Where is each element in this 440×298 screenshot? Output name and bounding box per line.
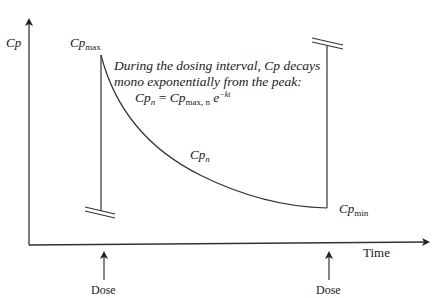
cp-n-label: Cpn: [190, 147, 210, 164]
decay-annotation: During the dosing interval, Cp decays mo…: [113, 58, 320, 107]
cp-max-sub: max: [85, 42, 101, 52]
eq-rhs-sub: max, n: [185, 97, 210, 107]
cp-max-base: Cp: [70, 35, 86, 50]
eq-exp-base: e: [210, 90, 219, 105]
eq-lhs-base: Cp: [135, 90, 151, 105]
pk-dosing-interval-diagram: Cp Time Cpmax Cpmin Cpn During the dosin…: [0, 0, 440, 298]
axis-break-mark-icon: [312, 38, 343, 45]
annotation-line-1: During the dosing interval, Cp decays: [113, 58, 320, 73]
y-axis: Cp: [6, 20, 29, 245]
eq-exp-sup: −kt: [219, 90, 231, 99]
eq-rhs-base: Cp: [170, 90, 186, 105]
eq-equals: =: [155, 90, 169, 105]
cp-min-base: Cp: [339, 201, 355, 216]
annotation-line-2: mono exponentially from the peak:: [114, 74, 302, 89]
axis-break-mark-icon: [85, 211, 115, 218]
dose-label-2: Dose: [316, 283, 341, 297]
cp-max-label: Cpmax: [70, 35, 101, 52]
y-axis-label: Cp: [6, 35, 22, 50]
dose-marker-1: Dose: [91, 253, 116, 297]
cp-n-sub: n: [205, 154, 210, 164]
dose-label-1: Dose: [91, 283, 116, 297]
cp-min-label: Cpmin: [339, 201, 369, 218]
axis-break-mark-icon: [85, 207, 115, 214]
first-dose-peak-line: [85, 55, 115, 218]
cp-n-base: Cp: [190, 147, 206, 162]
x-axis-label: Time: [363, 245, 390, 260]
dose-marker-2: Dose: [316, 253, 341, 297]
x-axis: Time: [29, 242, 428, 260]
decay-equation: Cpn = Cpmax, n e−kt: [135, 90, 231, 107]
cp-min-sub: min: [354, 208, 369, 218]
